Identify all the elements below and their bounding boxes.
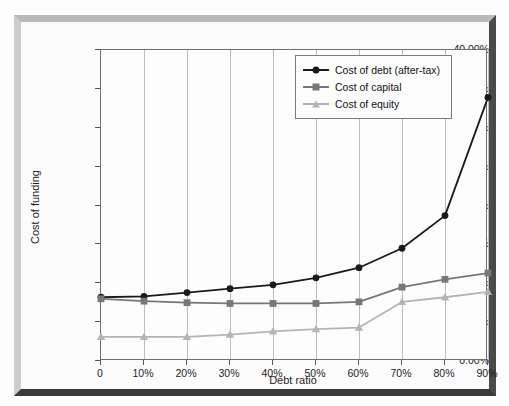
chart-canvas: Cost of funding Debt ratio 0.00%5.00%10.… [21,22,489,389]
legend-label-cost-of-debt: Cost of debt (after-tax) [335,64,440,76]
data-point-cost-of-capital [356,299,363,306]
legend-swatch-cost-of-equity [303,98,329,110]
data-point-cost-of-capital [141,298,148,305]
x-axis-tick-label: 80% [433,367,454,379]
series-cost-of-debt-after-tax [98,94,492,301]
data-point-cost-of-capital [184,299,191,306]
chart-screenshot: Cost of funding Debt ratio 0.00%5.00%10.… [0,0,509,406]
data-point-cost-of-debt-after-tax [313,274,320,281]
legend-label-cost-of-equity: Cost of equity [335,98,399,110]
data-point-cost-of-debt-after-tax [227,285,234,292]
legend-item-cost-of-equity: Cost of equity [303,95,444,112]
x-axis-tick-label: 70% [390,367,411,379]
x-axis-tick-label: 60% [347,367,368,379]
data-point-cost-of-debt-after-tax [485,94,492,101]
data-point-cost-of-capital [98,295,105,302]
x-axis-tick-label: 0 [97,367,103,379]
legend-label-cost-of-capital: Cost of capital [335,81,402,93]
beveled-picture-frame: Cost of funding Debt ratio 0.00%5.00%10.… [14,15,496,396]
chart-legend: Cost of debt (after-tax) Cost of capital… [295,55,452,119]
data-point-cost-of-debt-after-tax [270,281,277,288]
data-point-cost-of-capital [399,284,406,291]
series-line-cost-of-debt-after-tax [101,97,488,297]
data-point-cost-of-capital [313,300,320,307]
data-point-cost-of-capital [227,300,234,307]
series-cost-of-capital [98,270,492,307]
legend-swatch-cost-of-debt [303,64,329,76]
x-axis-tick-label: 30% [218,367,239,379]
legend-swatch-cost-of-capital [303,81,329,93]
data-point-cost-of-debt-after-tax [399,245,406,252]
data-point-cost-of-debt-after-tax [442,212,449,219]
data-point-cost-of-capital [270,300,277,307]
data-point-cost-of-debt-after-tax [356,264,363,271]
y-axis-title: Cost of funding [29,170,41,244]
x-axis-tick-label: 90% [476,367,497,379]
data-point-cost-of-capital [485,270,492,277]
x-axis-tick-label: 10% [132,367,153,379]
legend-item-cost-of-capital: Cost of capital [303,78,444,95]
series-line-cost-of-equity [101,292,488,337]
x-axis-tick-label: 40% [261,367,282,379]
legend-item-cost-of-debt: Cost of debt (after-tax) [303,61,444,78]
x-axis-tick-label: 50% [304,367,325,379]
x-axis-tick-label: 20% [175,367,196,379]
data-point-cost-of-debt-after-tax [184,289,191,296]
data-point-cost-of-capital [442,276,449,283]
